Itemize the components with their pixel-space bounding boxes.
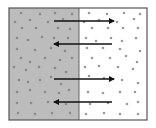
particle-dot bbox=[50, 76, 53, 79]
particle-dot bbox=[53, 37, 56, 40]
particle-dot bbox=[39, 13, 42, 16]
particle-dot bbox=[34, 113, 37, 116]
particle-dot bbox=[44, 57, 47, 60]
particle-dot bbox=[54, 67, 57, 70]
particle-dot bbox=[27, 81, 30, 84]
particle-dot bbox=[16, 102, 19, 105]
particle-dot bbox=[57, 27, 60, 30]
particle-dot bbox=[20, 12, 23, 15]
particle-dot bbox=[30, 102, 33, 105]
particle-dot bbox=[47, 101, 50, 104]
particle-dot bbox=[121, 79, 124, 82]
particle-dot bbox=[133, 18, 136, 21]
particle-dot bbox=[47, 21, 50, 24]
particle-dot bbox=[95, 40, 98, 43]
particle-dot bbox=[60, 83, 63, 86]
particle-dot bbox=[137, 82, 140, 85]
particle-dot bbox=[84, 66, 87, 69]
particle-dot bbox=[85, 37, 88, 40]
particle-dot bbox=[39, 79, 42, 82]
particle-dot bbox=[91, 57, 94, 60]
particle-dot bbox=[29, 19, 32, 22]
particle-dot bbox=[85, 113, 88, 116]
particle-dot bbox=[62, 18, 65, 21]
particle-dot bbox=[135, 37, 138, 40]
particle-dot bbox=[102, 47, 105, 50]
particle-dot bbox=[89, 103, 92, 106]
particle-dot bbox=[29, 61, 32, 64]
particle-dot bbox=[126, 103, 129, 106]
particle-dot bbox=[137, 113, 140, 116]
particle-dot bbox=[16, 91, 19, 94]
particle-dot bbox=[44, 91, 47, 94]
particle-dot bbox=[35, 27, 38, 30]
particle-dot bbox=[88, 75, 91, 78]
particle-dot bbox=[68, 89, 71, 92]
particle-dot bbox=[27, 39, 30, 42]
particle-dot bbox=[107, 27, 110, 30]
particle-dot bbox=[54, 12, 57, 15]
particle-dot bbox=[136, 61, 139, 64]
particle-dot bbox=[86, 47, 89, 50]
particle-dot bbox=[137, 101, 140, 104]
particle-dot bbox=[125, 55, 128, 58]
particle-dot bbox=[58, 92, 61, 95]
particle-dot bbox=[121, 40, 124, 43]
particle-dot bbox=[25, 69, 28, 72]
particle-dot bbox=[116, 21, 119, 24]
particle-dot bbox=[18, 79, 21, 82]
particle-dot bbox=[34, 49, 37, 52]
particle-dot bbox=[71, 57, 74, 60]
particle-dot bbox=[98, 65, 101, 68]
particle-dot bbox=[51, 112, 54, 115]
particle-dot bbox=[109, 57, 112, 60]
particle-dot bbox=[91, 27, 94, 30]
particle-dot bbox=[17, 112, 20, 115]
particle-dot bbox=[71, 13, 74, 16]
particle-dot bbox=[110, 37, 113, 40]
left-region-high-concentration bbox=[9, 8, 79, 120]
particle-dot bbox=[139, 13, 142, 16]
particle-dot bbox=[123, 12, 126, 15]
particle-dot bbox=[106, 13, 109, 16]
particle-dot bbox=[29, 89, 32, 92]
particle-dot bbox=[119, 91, 122, 94]
particle-dot bbox=[103, 112, 106, 115]
particle-dot bbox=[137, 27, 140, 30]
particle-dot bbox=[16, 37, 19, 40]
particle-dot bbox=[16, 48, 19, 51]
particle-dot bbox=[50, 47, 53, 50]
particle-dot bbox=[69, 28, 72, 31]
particle-dot bbox=[139, 50, 142, 53]
particle-dot bbox=[65, 103, 68, 106]
particle-dot bbox=[119, 113, 122, 116]
particle-dot bbox=[64, 50, 67, 53]
particle-dot bbox=[122, 27, 125, 30]
particle-dot bbox=[117, 66, 120, 69]
particle-dot bbox=[14, 21, 17, 24]
particle-dot bbox=[102, 92, 105, 95]
particle-dot bbox=[13, 66, 16, 69]
particle-dot bbox=[41, 36, 44, 39]
particle-dot bbox=[69, 112, 72, 115]
particle-dot bbox=[88, 12, 91, 15]
particle-dot bbox=[59, 59, 62, 62]
particle-dot bbox=[132, 68, 135, 71]
particle-dot bbox=[67, 37, 70, 40]
particle-dot bbox=[65, 71, 68, 74]
particle-dot bbox=[119, 48, 122, 51]
diffusion-diagram bbox=[0, 0, 156, 128]
particle-dot bbox=[87, 91, 90, 94]
particle-dot bbox=[21, 27, 24, 30]
particle-dot bbox=[38, 66, 41, 69]
particle-dot bbox=[134, 91, 137, 94]
particle-dot bbox=[20, 57, 23, 60]
